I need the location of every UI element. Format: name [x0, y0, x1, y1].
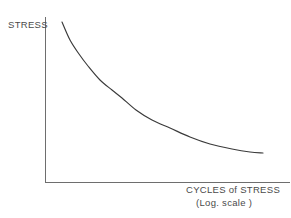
stress-cycles-curve	[62, 22, 263, 153]
x-axis-label-main: CYCLES of STRESS	[186, 184, 280, 195]
sn-curve-figure: STRESS CYCLES of STRESS (Log. scale )	[0, 0, 291, 218]
x-axis-label-sub: (Log. scale )	[196, 197, 252, 208]
y-axis-label: STRESS	[8, 19, 48, 30]
